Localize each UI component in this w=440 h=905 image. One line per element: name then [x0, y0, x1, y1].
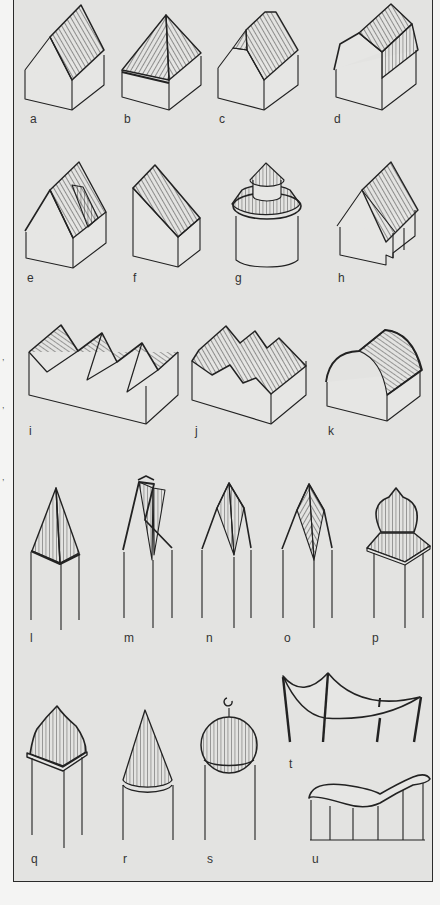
panel-r-conical-spire: [123, 710, 173, 840]
panel-n-rhomboid-spire: [202, 483, 251, 628]
panel-u-wave-roof: [309, 775, 430, 840]
label-s: s: [207, 853, 213, 865]
panel-k-barrel-roof: [326, 330, 422, 421]
panel-h-cross-gable-roof: [337, 162, 418, 265]
label-h: h: [338, 272, 345, 284]
panel-o-helm-spire: [282, 484, 332, 628]
label-l: l: [30, 632, 33, 644]
label-u: u: [312, 853, 319, 865]
label-d: d: [334, 113, 341, 125]
label-m: m: [124, 632, 134, 644]
label-q: q: [31, 853, 38, 865]
panel-a-gable-roof: [25, 5, 104, 110]
panel-f-lean-to-roof: [133, 165, 200, 267]
panel-q-ogee-dome: [27, 706, 87, 848]
panel-c-half-hipped-roof: [218, 12, 298, 110]
margin-mark: ,: [2, 400, 5, 410]
panel-e-dormer-roof: [25, 162, 106, 268]
panel-l-pyramid-spire: [31, 488, 80, 630]
label-b: b: [124, 113, 131, 125]
panel-s-crescent-dome: [201, 698, 257, 840]
panel-i-sawtooth-roof: [29, 325, 178, 424]
label-n: n: [206, 632, 213, 644]
label-j: j: [195, 425, 198, 437]
panel-p-onion-dome: [367, 488, 430, 628]
panel-b-hipped-roof: [122, 15, 201, 110]
panel-j-multi-ridge-roof: [192, 326, 306, 424]
panel-t-tent-roof: [283, 673, 421, 742]
label-a: a: [30, 113, 37, 125]
label-e: e: [27, 272, 34, 284]
label-o: o: [284, 632, 291, 644]
panel-g-round-tower-roof: [232, 163, 301, 267]
label-g: g: [235, 272, 242, 284]
label-f: f: [133, 272, 136, 284]
label-r: r: [123, 853, 127, 865]
label-c: c: [219, 113, 225, 125]
label-i: i: [29, 425, 32, 437]
margin-mark: ,: [2, 472, 5, 482]
label-k: k: [328, 425, 334, 437]
panel-m-gabled-spire: [123, 476, 172, 628]
roof-forms-diagram: [0, 0, 440, 905]
label-t: t: [289, 758, 292, 770]
margin-mark: ,: [2, 352, 5, 362]
panel-d-gambrel-roof: [334, 4, 418, 110]
label-p: p: [372, 632, 379, 644]
